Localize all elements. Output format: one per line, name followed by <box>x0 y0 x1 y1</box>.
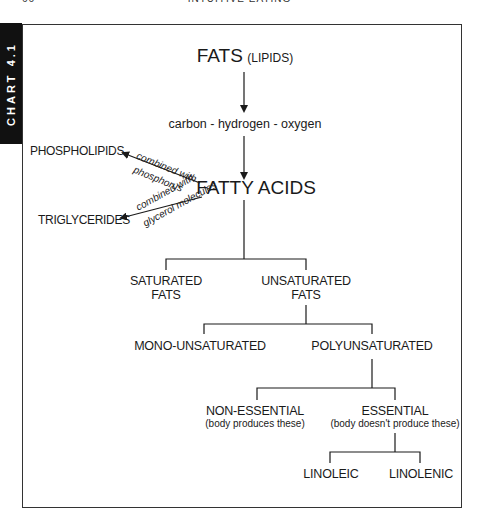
node-saturated-fats: SATURATED FATS <box>130 274 202 303</box>
node-non-essential-note: (body produces these) <box>205 418 305 430</box>
connector-lines <box>0 0 479 521</box>
node-essential-label: ESSENTIAL <box>330 404 459 418</box>
node-non-essential: NON-ESSENTIAL (body produces these) <box>205 404 305 430</box>
node-polyunsaturated: POLYUNSATURATED <box>311 339 432 353</box>
node-triglycerides: TRIGLYCERIDES <box>38 214 130 228</box>
node-fats: FATS (LIPIDS) <box>197 45 294 67</box>
node-fats-title: FATS <box>197 45 243 66</box>
node-unsaturated-line1: UNSATURATED <box>261 274 351 288</box>
node-linoleic: LINOLEIC <box>303 467 358 481</box>
node-phospholipids: PHOSPHOLIPIDS <box>30 145 124 159</box>
node-unsaturated-line2: FATS <box>261 288 351 302</box>
node-essential: ESSENTIAL (body doesn't produce these) <box>330 404 459 430</box>
node-linolenic: LINOLENIC <box>389 467 453 481</box>
node-saturated-line1: SATURATED <box>130 274 202 288</box>
node-mono-unsaturated: MONO-UNSATURATED <box>134 339 266 353</box>
node-composition: carbon - hydrogen - oxygen <box>169 117 322 131</box>
node-fats-subtitle: (LIPIDS) <box>247 51 293 65</box>
node-saturated-line2: FATS <box>130 288 202 302</box>
node-unsaturated-fats: UNSATURATED FATS <box>261 274 351 303</box>
node-non-essential-label: NON-ESSENTIAL <box>205 404 305 418</box>
node-essential-note: (body doesn't produce these) <box>330 418 459 430</box>
